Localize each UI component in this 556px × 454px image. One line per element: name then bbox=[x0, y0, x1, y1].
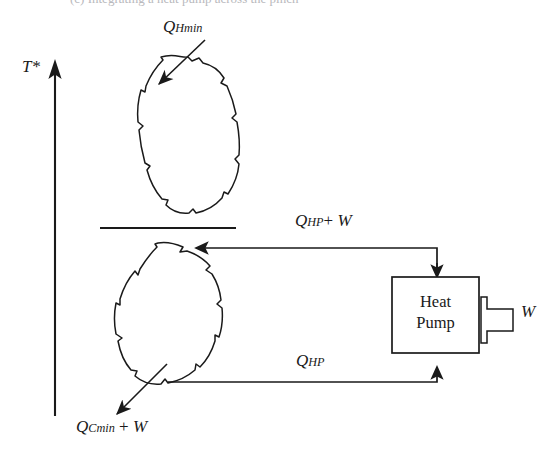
label-work-input: W bbox=[521, 303, 535, 320]
heat-rejected-line bbox=[196, 248, 437, 277]
temperature-axis-arrow bbox=[48, 59, 61, 416]
heat-pump-label-line1: Heat bbox=[392, 292, 479, 313]
block-arrow-work-input bbox=[481, 297, 513, 343]
heat-pump-label: Heat Pump bbox=[392, 292, 479, 333]
label-q-cmin-plus-w: QCmin + W bbox=[76, 418, 147, 435]
diagram-vector-layer bbox=[0, 0, 556, 454]
label-q-hp-plus-w: QHP+ W bbox=[295, 212, 352, 229]
arrow-out-of-cold-composite bbox=[117, 364, 167, 414]
label-q-hp: QHP bbox=[296, 352, 325, 369]
axis-label-tstar: T* bbox=[22, 58, 40, 75]
cold-composite-curve bbox=[115, 242, 223, 384]
heat-pump-label-line2: Pump bbox=[392, 313, 479, 334]
label-q-hmin: QHmin bbox=[163, 18, 202, 35]
arrow-into-hot-composite bbox=[159, 40, 205, 84]
hot-composite-curve bbox=[138, 55, 240, 213]
figure-canvas: (c) Integrating a heat pump across the p… bbox=[0, 0, 556, 454]
